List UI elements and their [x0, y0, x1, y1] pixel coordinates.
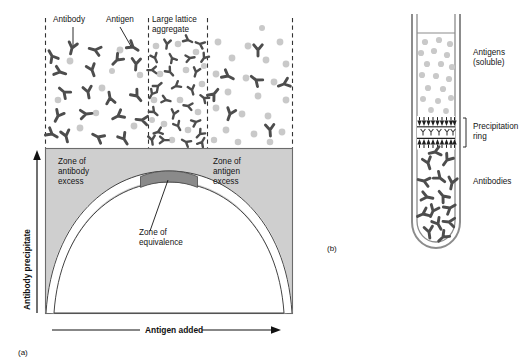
y-axis-arrow: [33, 150, 41, 313]
ring-bracket: [463, 118, 466, 147]
label-precipitation-ring: Precipitation ring: [473, 122, 518, 142]
y-axis-label: Antibody precipitate: [22, 229, 32, 310]
leader-antigen: [120, 27, 132, 48]
antibody-glyphs-zone2: [147, 35, 209, 147]
antigen-dots-zone1: [55, 47, 144, 132]
panel-b-letter: (b): [327, 244, 337, 253]
label-zone-antibody-excess: Zone of antibody excess: [58, 157, 89, 188]
x-axis-label: Antigen added: [145, 325, 203, 335]
label-antigen: Antigen: [106, 15, 134, 25]
label-large-lattice-aggregate: Large lattice aggregate: [152, 15, 197, 35]
label-antibodies: Antibodies: [473, 177, 511, 187]
label-zone-of-equivalence: Zone of equivalence: [139, 228, 183, 248]
panel-b-test-tube: [412, 14, 466, 248]
compartment-large-lattice-aggregate: [147, 35, 209, 147]
compartment-antibody-excess: [45, 41, 147, 147]
label-leader-lines: [73, 27, 132, 48]
label-antigens-soluble: Antigens (soluble): [473, 48, 505, 68]
antibody-glyphs-zone3: [207, 45, 290, 136]
label-antibody: Antibody: [53, 15, 85, 25]
label-zone-antigen-excess: Zone of antigen excess: [213, 157, 241, 188]
panel-a-letter: (a): [18, 348, 28, 357]
compartment-antigen-excess: [207, 25, 290, 145]
antibody-glyphs-zone1: [45, 41, 147, 147]
